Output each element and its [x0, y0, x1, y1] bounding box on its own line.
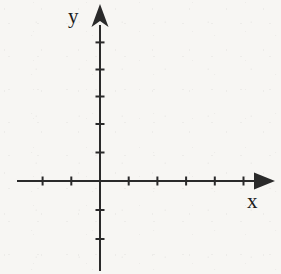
- y-axis-label: y: [68, 6, 79, 27]
- x-axis-label: x: [247, 191, 258, 212]
- coordinate-plane-figure: y x: [0, 0, 281, 274]
- axes-svg: [0, 0, 281, 274]
- figure-background: [0, 0, 281, 274]
